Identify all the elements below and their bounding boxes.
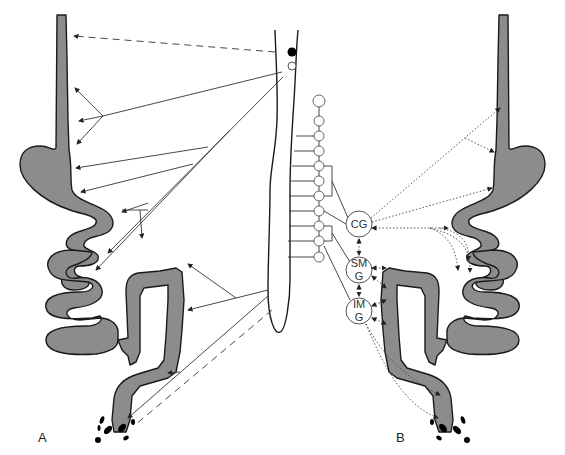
ganglion-img-label-2: G xyxy=(355,311,364,323)
ganglion-img-label-1: IM xyxy=(353,298,365,310)
gut-b xyxy=(381,15,545,443)
ganglion-cg-label: CG xyxy=(351,218,368,230)
brainstem-nucleus-open xyxy=(288,62,296,70)
esophagus-stomach-a xyxy=(20,15,113,290)
panel-label-b: B xyxy=(396,430,405,445)
ganglion-smg-label-2: G xyxy=(355,270,364,282)
panel-label-a: A xyxy=(38,430,47,445)
ganglion-smg: SM G xyxy=(346,257,372,283)
gut-a xyxy=(20,15,184,443)
colon-a xyxy=(112,268,184,432)
sympathetic-chain xyxy=(288,95,350,300)
ganglion-smg-label-1: SM xyxy=(351,257,368,269)
diagram-canvas: CG SM G IM G xyxy=(0,0,565,455)
colon-b xyxy=(381,268,453,432)
brainstem-nucleus-filled xyxy=(288,48,297,57)
esophagus-stomach-b xyxy=(452,15,545,290)
ganglion-cg: CG xyxy=(346,211,372,237)
ganglion-img: IM G xyxy=(346,298,372,324)
